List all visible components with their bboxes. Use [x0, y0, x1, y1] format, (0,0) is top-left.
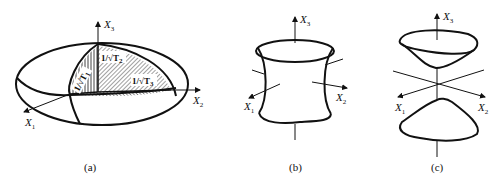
axis-x1-label: X1	[24, 116, 36, 131]
axis-x2-front	[312, 82, 347, 88]
bottom-rim	[259, 113, 331, 123]
semi-axis-label-1: 1/√T2	[100, 51, 126, 65]
panel-c-hyperboloid-two-sheets: X3 X1 X2 (c)	[393, 10, 489, 174]
axis-x2-label: X2	[477, 101, 489, 116]
axis-x1-label: X1	[394, 101, 406, 116]
axis-x3-label: X3	[103, 18, 115, 33]
semi-axis-label-2: 1/√T3	[131, 74, 157, 88]
axis-x3-label: X3	[299, 13, 311, 28]
caption-a: (a)	[84, 161, 97, 174]
top-rim	[256, 40, 334, 62]
panel-a-ellipsoid: X3 X1 X2 1/√T2 1/√T3 1/√T1 (a)	[16, 18, 204, 174]
quadric-surfaces-figure: X3 X1 X2 1/√T2 1/√T3 1/√T1 (a)	[0, 0, 497, 188]
axis-x1-back	[252, 70, 264, 74]
axis-x1-arrow	[24, 94, 70, 112]
axis-x2-label: X2	[335, 91, 347, 106]
axis-x3-label: X3	[442, 10, 454, 25]
axis-x2-line	[393, 71, 485, 97]
caption-b: (b)	[289, 161, 302, 174]
axis-x2-label: X2	[192, 94, 204, 109]
panel-b-hyperboloid-one-sheet: X3 X1 X2 (b)	[243, 13, 347, 174]
caption-c: (c)	[431, 161, 444, 174]
axis-x1-label: X1	[243, 100, 255, 115]
lower-sheet	[400, 99, 478, 141]
